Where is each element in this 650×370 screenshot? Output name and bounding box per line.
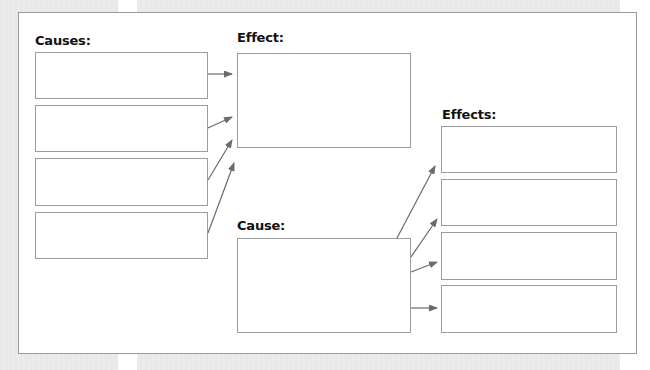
cause-box[interactable] (237, 238, 411, 333)
cause-box-1[interactable] (35, 52, 208, 99)
effects-box-3[interactable] (441, 232, 617, 280)
cause-box-4[interactable] (35, 212, 208, 259)
effects-label: Effects: (442, 108, 496, 122)
causes-label: Causes: (35, 34, 91, 48)
cause-box-2[interactable] (35, 105, 208, 152)
effects-box-1[interactable] (441, 126, 617, 173)
effects-box-4[interactable] (441, 285, 617, 333)
effect-label: Effect: (237, 31, 284, 45)
effects-box-2[interactable] (441, 179, 617, 226)
cause-box-3[interactable] (35, 158, 208, 206)
effect-box[interactable] (237, 53, 411, 148)
cause-label: Cause: (237, 219, 285, 233)
